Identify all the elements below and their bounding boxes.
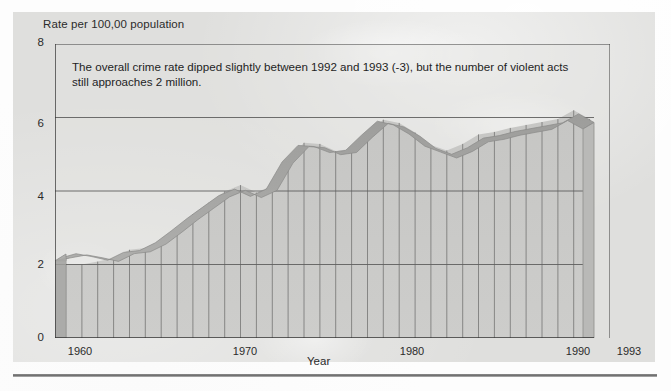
x-tick-label-1980: 1980	[400, 345, 424, 357]
chart-annotation: The overall crime rate dipped slightly b…	[72, 60, 572, 89]
y-tick-label-0: 0	[22, 331, 44, 343]
bottom-rule	[13, 374, 657, 377]
y-tick-label-2: 2	[22, 258, 44, 270]
left-front-bevel	[55, 257, 66, 339]
x-tick-label-1993: 1993	[617, 345, 641, 357]
x-axis-title: Year	[307, 355, 330, 367]
y-tick-label-6: 6	[22, 117, 44, 129]
x-tick-label-1970: 1970	[233, 345, 257, 357]
x-tick-label-1960: 1960	[68, 345, 92, 357]
y-tick-label-4: 4	[22, 190, 44, 202]
scanned-page: Rate per 100,00 population 8 6 4 2 0	[0, 0, 671, 391]
x-tick-label-1990: 1990	[566, 345, 590, 357]
right-end-face	[583, 122, 594, 338]
y-axis-title: Rate per 100,00 population	[43, 18, 184, 30]
y-tick-label-8: 8	[22, 36, 44, 48]
